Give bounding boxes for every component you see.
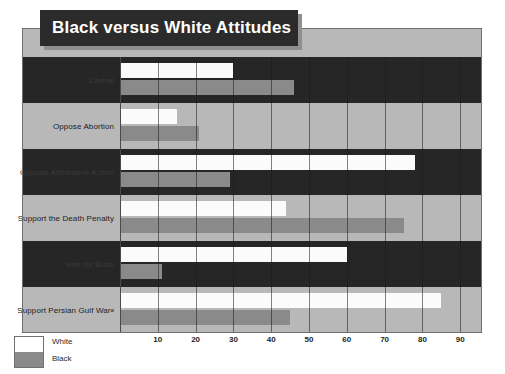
row-label: Liberal	[23, 57, 120, 103]
row-bars	[120, 149, 481, 195]
bar-white	[120, 109, 177, 124]
x-tick-label: 60	[342, 335, 351, 344]
bar-white	[120, 155, 415, 170]
x-axis-ticks: 102030405060708090	[23, 335, 481, 351]
bar-rows: LiberalOppose AbortionOppose Affirmative…	[23, 57, 481, 333]
title-plaque: Black versus White Attitudes	[40, 10, 298, 46]
row-bars	[120, 57, 481, 103]
chart-figure: LiberalOppose AbortionOppose Affirmative…	[0, 0, 505, 374]
chart-title: Black versus White Attitudes	[40, 18, 291, 38]
row-label: Oppose Abortion	[23, 103, 120, 149]
chart-row: Liberal	[23, 57, 481, 103]
row-bars	[120, 195, 481, 241]
chart-row: Support the Death Penalty	[23, 195, 481, 241]
row-bars	[120, 241, 481, 287]
bar-white	[120, 201, 286, 216]
row-label: Support Persian Gulf Wara	[23, 287, 120, 333]
row-bars	[120, 287, 481, 333]
chart-row: Oppose Abortion	[23, 103, 481, 149]
value-axis-line	[120, 57, 121, 333]
legend-swatch-white	[15, 337, 43, 352]
row-label: Support the Death Penalty	[23, 195, 120, 241]
x-tick-label: 40	[267, 335, 276, 344]
chart-row: Oppose Affirmative Action	[23, 149, 481, 195]
bar-black	[120, 172, 230, 187]
x-tick-label: 70	[380, 335, 389, 344]
bar-white	[120, 247, 347, 262]
bar-black	[120, 126, 199, 141]
row-label: Oppose Affirmative Action	[23, 149, 120, 195]
bar-white	[120, 293, 441, 308]
legend-label-white: White	[52, 337, 72, 346]
chart-row: Support Persian Gulf Wara	[23, 287, 481, 333]
x-tick-label: 20	[191, 335, 200, 344]
x-tick-label: 10	[153, 335, 162, 344]
bar-black	[120, 218, 404, 233]
x-tick-label: 30	[229, 335, 238, 344]
bar-black	[120, 310, 290, 325]
bar-black	[120, 80, 294, 95]
legend-swatch-black	[15, 352, 43, 367]
legend-swatch-box	[14, 336, 44, 368]
bar-white	[120, 63, 233, 78]
x-tick-label: 90	[456, 335, 465, 344]
row-label: Vote for Bush	[23, 241, 120, 287]
row-label-footnote: a	[111, 307, 114, 313]
legend-label-black: Black	[52, 354, 72, 363]
x-tick-label: 50	[305, 335, 314, 344]
x-tick-label: 80	[418, 335, 427, 344]
chart-row: Vote for Bush	[23, 241, 481, 287]
bar-black	[120, 264, 162, 279]
plot-area: LiberalOppose AbortionOppose Affirmative…	[23, 57, 481, 333]
row-bars	[120, 103, 481, 149]
